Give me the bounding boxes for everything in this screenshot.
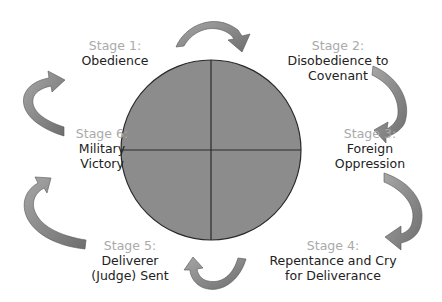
stage-4-label: Stage 4: Repentance and Cry for Delivera… [248,238,418,283]
stage-2-name-line2: Covenant [268,68,408,83]
stage-3-name-line1: Foreign [305,141,435,156]
stage-3-name-line2: Oppression [305,156,435,171]
stage-6-name-line1: Military [52,141,152,156]
stage-4-number: Stage 4: [248,238,418,253]
arrow-stage1-to-stage2-icon [176,22,250,52]
stage-1-name: Obedience [55,53,175,68]
stage-5-name-line2: (Judge) Sent [75,268,185,283]
stage-1-label: Stage 1: Obedience [55,38,175,68]
stage-5-label: Stage 5: Deliverer (Judge) Sent [75,238,185,283]
stage-1-number: Stage 1: [55,38,175,53]
stage-6-label: Stage 6: Military Victory [52,126,152,171]
stage-3-number: Stage 3: [305,126,435,141]
arrow-stage4-to-stage5-icon [184,257,246,289]
stage-6-name-line2: Victory [52,156,152,171]
stage-2-label: Stage 2: Disobedience to Covenant [268,38,408,83]
stage-2-name-line1: Disobedience to [268,53,408,68]
stage-3-label: Stage 3: Foreign Oppression [305,126,435,171]
stage-2-number: Stage 2: [268,38,408,53]
stage-5-number: Stage 5: [75,238,185,253]
stage-6-number: Stage 6: [52,126,152,141]
stage-5-name-line1: Deliverer [75,253,185,268]
stage-4-name-line2: for Deliverance [248,268,418,283]
stage-4-name-line1: Repentance and Cry [248,253,418,268]
